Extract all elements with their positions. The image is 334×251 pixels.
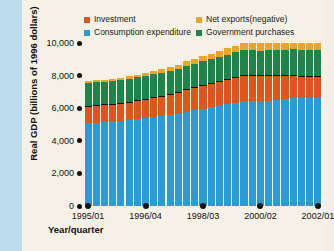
bar-segment (150, 117, 157, 206)
bar-segment (85, 123, 92, 206)
y-axis-tick-dot (77, 204, 82, 209)
bar-segment (265, 43, 272, 50)
y-axis-ticks: 10,0008,0006,0004,0002,0000 (30, 38, 82, 210)
bar-segment (208, 107, 215, 206)
bar-segment (183, 66, 190, 91)
bar-segment (240, 76, 247, 101)
bar-stack (240, 43, 247, 206)
bar-stack (158, 43, 165, 206)
bar-segment (224, 104, 231, 206)
bar-segment (167, 95, 174, 115)
bar-segment (257, 43, 264, 51)
bar-segment (183, 90, 190, 111)
bar-segment (249, 101, 256, 206)
bar-segment (199, 109, 206, 206)
bar-segment (142, 118, 149, 206)
y-axis-tick-dot (77, 106, 82, 111)
bar-segment (93, 123, 100, 206)
y-axis-tick: 10,000 (46, 38, 82, 48)
bar-stack (134, 43, 141, 206)
y-axis-tick-dot (77, 73, 82, 78)
bar-stack (150, 43, 157, 206)
x-axis-tick-label: 1998/03 (187, 211, 220, 221)
y-axis-tick: 6,000 (51, 103, 82, 113)
bar-segment (191, 64, 198, 89)
bar-segment (150, 98, 157, 116)
bar-stack (101, 43, 108, 206)
x-axis-tick-dot (85, 203, 91, 209)
bar-segment (117, 80, 124, 104)
bar-segment (314, 50, 321, 77)
x-axis-tick-labels: 1995/011996/041998/032000/022002/01 (46, 211, 326, 225)
bar-segment (257, 101, 264, 206)
bar-segment (240, 50, 247, 76)
x-axis-tick-dots (84, 203, 324, 210)
bar-stack (208, 43, 215, 206)
x-axis-title: Year/quarter (48, 224, 103, 235)
bar-segment (126, 120, 133, 206)
bar-segment (257, 76, 264, 101)
bar-segment (93, 106, 100, 122)
bar-stack (93, 43, 100, 206)
bar-segment (158, 97, 165, 116)
bar-stack (117, 43, 124, 206)
bar-segment (109, 81, 116, 105)
bar-stack (142, 43, 149, 206)
bar-segment (281, 99, 288, 206)
bar-stack (109, 43, 116, 206)
bar-segment (216, 106, 223, 206)
bar-segment (175, 93, 182, 113)
bar-segment (314, 43, 321, 50)
bar-segment (85, 83, 92, 107)
bar-segment (306, 50, 313, 77)
y-axis-tick-label: 2,000 (51, 168, 74, 178)
y-axis-tick-dot (77, 171, 82, 176)
bar-segment (109, 121, 116, 206)
bar-stack (167, 43, 174, 206)
bar-segment (273, 100, 280, 206)
y-axis-tick-dot (77, 41, 82, 46)
bar-segment (142, 100, 149, 118)
bar-segment (257, 51, 264, 77)
bar-stack (265, 43, 272, 206)
bar-segment (101, 105, 108, 121)
bar-segment (249, 76, 256, 101)
y-axis-tick: 4,000 (51, 136, 82, 146)
bar-segment (167, 115, 174, 206)
bar-segment (298, 50, 305, 77)
bar-stack (257, 43, 264, 206)
bar-segment (273, 50, 280, 76)
bar-segment (232, 78, 239, 102)
bar-segment (216, 82, 223, 105)
bar-segment (232, 103, 239, 206)
bar-segment (183, 112, 190, 206)
bar-stack (175, 43, 182, 206)
bar-segment (298, 77, 305, 98)
bar-segment (126, 79, 133, 103)
y-axis-tick-dot (77, 138, 82, 143)
bar-segment (167, 71, 174, 95)
bar-segment (281, 43, 288, 50)
x-axis-tick-dot (257, 203, 263, 209)
y-axis-tick-label: 0 (69, 201, 74, 211)
bar-segment (208, 84, 215, 107)
bar-stack (216, 43, 223, 206)
bar-segment (85, 107, 92, 123)
bar-segment (199, 61, 206, 86)
bar-segment (306, 43, 313, 50)
y-axis-tick: 0 (69, 201, 82, 211)
bar-segment (175, 69, 182, 93)
bar-segment (314, 98, 321, 206)
bar-stack (273, 43, 280, 206)
bar-segment (224, 80, 231, 104)
bar-segment (134, 119, 141, 206)
y-axis-tick: 2,000 (51, 168, 82, 178)
bar-segment (175, 113, 182, 206)
bar-segment (273, 76, 280, 100)
bar-segment (265, 101, 272, 206)
bar-segment (134, 101, 141, 118)
bar-segment (199, 86, 206, 108)
bar-segment (281, 76, 288, 98)
bar-segment (191, 88, 198, 110)
bar-segment (101, 122, 108, 206)
